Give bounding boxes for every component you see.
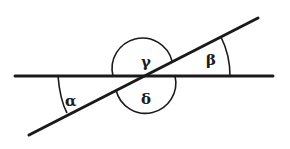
delta-label: δ (141, 90, 151, 108)
alpha-label: α (65, 92, 77, 110)
gamma-label: γ (141, 53, 151, 71)
beta-label: β (206, 51, 216, 69)
beta-arc (221, 37, 230, 76)
angle-diagram: α β γ δ (0, 0, 290, 149)
